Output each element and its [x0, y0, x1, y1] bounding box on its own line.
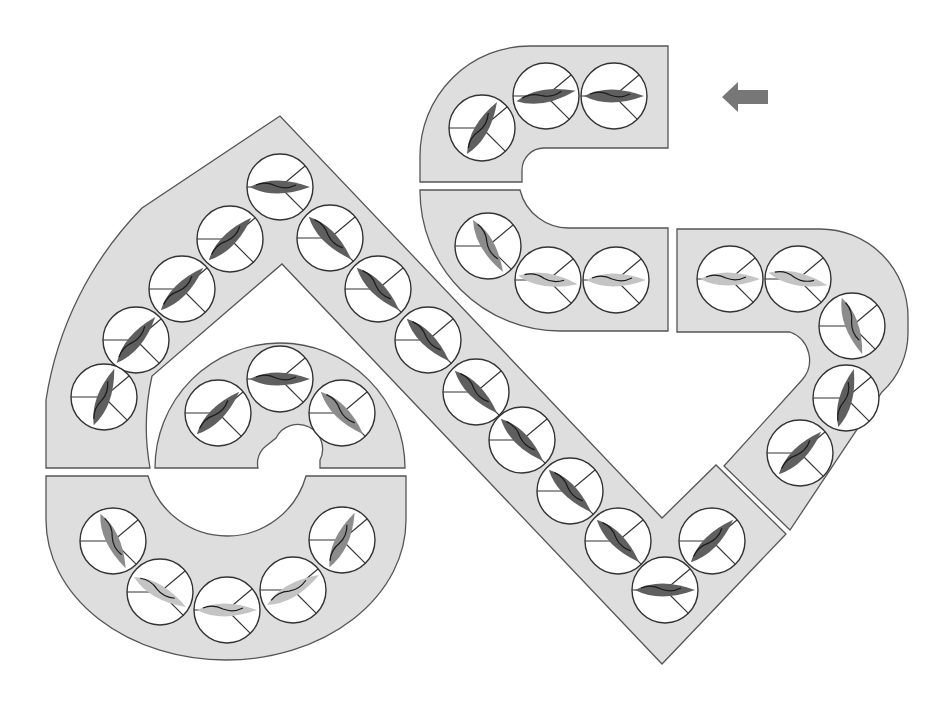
maneuver-cell — [247, 346, 313, 412]
maneuver-cell — [443, 359, 509, 425]
maneuver-cell — [260, 557, 326, 623]
maneuver-cell — [813, 365, 879, 431]
maneuver-cell — [679, 508, 745, 574]
arrow-left-icon — [722, 82, 768, 112]
maneuver-cell — [455, 213, 521, 279]
maneuver-cell — [449, 95, 515, 161]
maneuver-cell — [581, 63, 647, 129]
maneuver-cell — [395, 307, 461, 373]
maneuver-cell — [297, 205, 363, 271]
maneuver-cell — [765, 246, 831, 312]
maneuver-cell — [583, 247, 649, 313]
maneuver-cell — [103, 307, 169, 373]
maneuver-cell — [185, 380, 251, 446]
maneuver-cell — [697, 246, 763, 312]
maneuver-cell — [489, 407, 555, 473]
maneuver-cell — [194, 577, 260, 643]
maneuver-cell — [71, 364, 137, 430]
maneuver-cell — [197, 206, 263, 272]
maneuver-cell — [819, 293, 885, 359]
maneuver-cell — [632, 557, 698, 623]
maneuver-cell — [513, 63, 579, 129]
maneuver-cell — [767, 420, 833, 486]
maneuver-cell — [537, 458, 603, 524]
maneuver-cell — [247, 154, 313, 220]
maneuver-cell — [149, 256, 215, 322]
maneuver-cell — [585, 508, 651, 574]
maneuver-cell — [80, 508, 146, 574]
maneuver-cell — [309, 380, 375, 446]
maneuver-cell — [309, 507, 375, 573]
sailing-board — [0, 0, 943, 714]
maneuver-cell — [515, 247, 581, 313]
maneuver-cell — [345, 256, 411, 322]
maneuver-cell — [127, 559, 193, 625]
